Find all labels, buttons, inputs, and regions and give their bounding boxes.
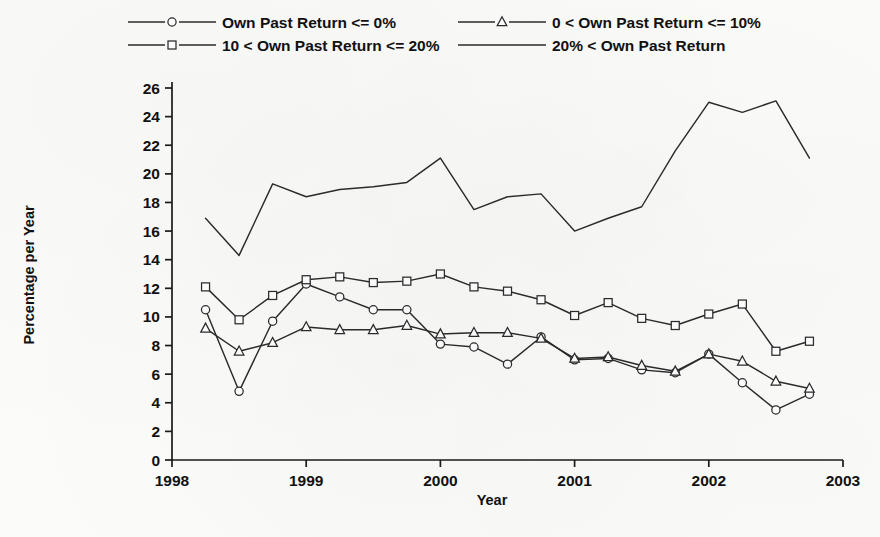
circle-marker: [470, 343, 478, 351]
square-marker: [671, 322, 679, 330]
legend-entry-2[interactable]: 0 < Own Past Return <= 10%: [458, 14, 761, 31]
circle-marker: [503, 360, 511, 368]
x-axis-title: Year: [477, 492, 508, 508]
legend-triangle-marker: [497, 17, 507, 26]
square-marker: [302, 276, 310, 284]
series-line: [206, 101, 810, 256]
x-axis-tick-labels: 199819992000200120022003: [155, 460, 861, 489]
y-tick-label: 20: [143, 165, 160, 182]
series-4: [206, 101, 810, 256]
circle-marker: [201, 306, 209, 314]
triangle-marker: [201, 323, 211, 332]
series-3: [202, 270, 814, 355]
square-marker: [269, 291, 277, 299]
chart-axes: [172, 82, 843, 460]
legend-entry-1[interactable]: Own Past Return <= 0%: [128, 14, 396, 31]
square-marker: [537, 296, 545, 304]
square-marker: [805, 337, 813, 345]
circle-marker: [336, 293, 344, 301]
triangle-marker: [503, 327, 513, 336]
square-marker: [369, 279, 377, 287]
square-marker: [336, 273, 344, 281]
series-1: [201, 280, 813, 414]
triangle-marker: [301, 322, 311, 331]
square-marker: [202, 283, 210, 291]
circle-marker: [772, 406, 780, 414]
x-tick-label: 2001: [557, 472, 592, 489]
y-axis-title: Percentage per Year: [21, 205, 37, 345]
square-marker: [235, 316, 243, 324]
series-2: [201, 320, 814, 392]
square-marker: [638, 314, 646, 322]
legend-label: 0 < Own Past Return <= 10%: [552, 14, 761, 31]
y-tick-label: 6: [151, 366, 160, 383]
y-axis-tick-labels: 02468101214161820222426: [143, 80, 172, 469]
circle-marker: [369, 306, 377, 314]
legend-label: 20% < Own Past Return: [552, 37, 726, 54]
y-tick-label: 18: [143, 194, 161, 211]
square-marker: [705, 310, 713, 318]
legend-label: Own Past Return <= 0%: [222, 14, 396, 31]
y-tick-label: 14: [143, 251, 161, 268]
x-tick-label: 2003: [826, 472, 861, 489]
square-marker: [470, 283, 478, 291]
chart-series-layer: [201, 101, 814, 414]
legend-entry-3[interactable]: 10 < Own Past Return <= 20%: [128, 37, 440, 54]
y-tick-label: 4: [151, 394, 160, 411]
circle-marker: [269, 317, 277, 325]
legend-label: 10 < Own Past Return <= 20%: [222, 37, 440, 54]
y-tick-label: 22: [143, 137, 160, 154]
y-tick-label: 16: [143, 223, 161, 240]
legend-square-marker: [168, 41, 176, 49]
square-marker: [772, 347, 780, 355]
y-tick-label: 8: [151, 337, 160, 354]
triangle-marker: [771, 376, 781, 385]
y-tick-label: 26: [143, 80, 161, 97]
y-tick-label: 12: [143, 280, 160, 297]
x-tick-label: 1999: [289, 472, 324, 489]
triangle-marker: [268, 337, 278, 346]
square-marker: [738, 300, 746, 308]
legend-circle-marker: [168, 18, 176, 26]
triangle-marker: [469, 327, 479, 336]
series-line: [206, 274, 810, 351]
circle-marker: [738, 379, 746, 387]
chart-legend: Own Past Return <= 0%0 < Own Past Return…: [128, 14, 761, 54]
square-marker: [436, 270, 444, 278]
y-tick-label: 10: [143, 308, 160, 325]
y-tick-label: 2: [151, 423, 160, 440]
series-line: [206, 284, 810, 410]
triangle-marker: [402, 320, 412, 329]
square-marker: [571, 311, 579, 319]
x-tick-label: 2002: [692, 472, 726, 489]
circle-marker: [403, 306, 411, 314]
y-tick-label: 24: [143, 108, 161, 125]
legend-entry-4[interactable]: 20% < Own Past Return: [458, 37, 726, 54]
line-chart: Own Past Return <= 0%0 < Own Past Return…: [0, 0, 880, 537]
x-tick-label: 2000: [423, 472, 457, 489]
square-marker: [403, 277, 411, 285]
chart-figure: Own Past Return <= 0%0 < Own Past Return…: [0, 0, 880, 537]
circle-marker: [436, 340, 444, 348]
x-tick-label: 1998: [155, 472, 190, 489]
circle-marker: [235, 387, 243, 395]
square-marker: [504, 287, 512, 295]
square-marker: [604, 299, 612, 307]
y-tick-label: 0: [151, 452, 160, 469]
